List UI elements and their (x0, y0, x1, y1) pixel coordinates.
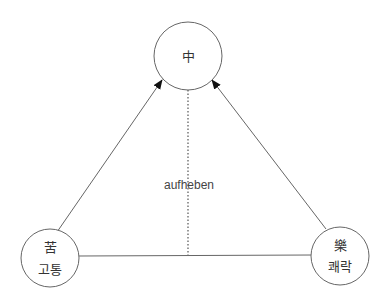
node-middle: 中 (154, 22, 222, 90)
triangle-diagram: aufheben 中 苦 고통 樂 쾌락 (0, 0, 387, 301)
node-middle-hanja: 中 (182, 49, 195, 64)
aufheben-label: aufheben (164, 178, 214, 192)
node-pleasure-circle (311, 227, 369, 285)
edge-base-line (79, 255, 311, 256)
node-suffering-circle (21, 229, 79, 287)
node-pleasure: 樂 쾌락 (311, 227, 369, 285)
node-suffering-korean: 고통 (38, 262, 62, 277)
edge-pleasure-to-middle (212, 80, 326, 229)
node-suffering-hanja: 苦 (44, 240, 57, 255)
node-pleasure-hanja: 樂 (334, 238, 347, 253)
node-pleasure-korean: 쾌락 (328, 259, 352, 274)
node-suffering: 苦 고통 (21, 229, 79, 287)
edge-suffering-to-middle (57, 80, 162, 232)
